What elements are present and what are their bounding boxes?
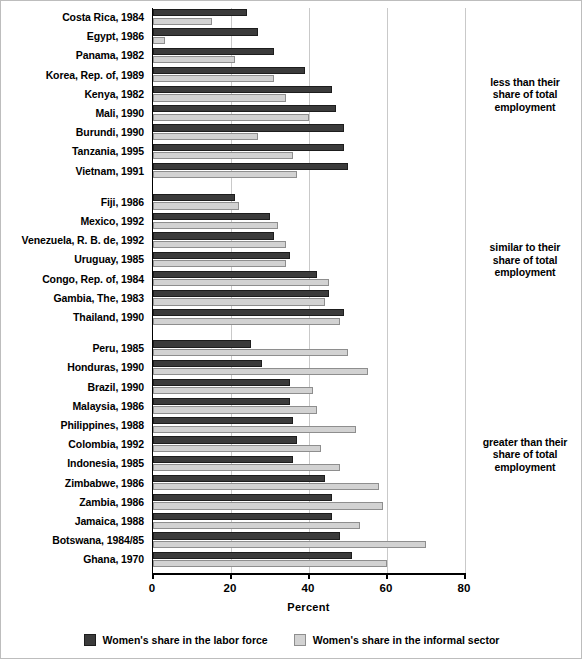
bar-labor-force: [153, 290, 329, 297]
row-label: Uruguay, 1985: [0, 251, 144, 268]
chart-row: Jamaica, 1988: [0, 512, 583, 531]
bar-labor-force: [153, 194, 235, 201]
row-bars: [153, 308, 573, 327]
row-bars: [153, 550, 573, 569]
row-bars: [153, 212, 573, 231]
row-label: Philippines, 1988: [0, 417, 144, 434]
row-bars: [153, 378, 573, 397]
bar-informal-sector: [153, 318, 340, 325]
chart-row: Peru, 1985: [0, 339, 583, 358]
x-tick-label-80: 80: [457, 582, 470, 594]
group-note-line: similar to their: [470, 241, 580, 254]
bar-informal-sector: [153, 222, 278, 229]
row-label: Burundi, 1990: [0, 124, 144, 141]
x-tick-label-0: 0: [149, 582, 156, 594]
row-label: Panama, 1982: [0, 47, 144, 64]
chart-row: Thailand, 1990: [0, 308, 583, 327]
x-tick-20: [230, 573, 232, 579]
row-bars: [153, 289, 573, 308]
bar-labor-force: [153, 494, 332, 501]
bar-informal-sector: [153, 202, 239, 209]
bar-informal-sector: [153, 171, 297, 178]
chart-row: Zimbabwe, 1986: [0, 474, 583, 493]
chart-row: Ghana, 1970: [0, 550, 583, 569]
row-bars: [153, 358, 573, 377]
chart-row: Tanzania, 1995: [0, 142, 583, 161]
chart-row: Malaysia, 1986: [0, 397, 583, 416]
chart-row: Mexico, 1992: [0, 212, 583, 231]
row-label: Kenya, 1982: [0, 86, 144, 103]
horizontal-bar-chart: Costa Rica, 1984Egypt, 1986Panama, 1982K…: [0, 0, 583, 660]
bar-labor-force: [153, 9, 247, 16]
bar-informal-sector: [153, 464, 340, 471]
row-label: Tanzania, 1995: [0, 143, 144, 160]
bar-informal-sector: [153, 368, 368, 375]
chart-row: Gambia, The, 1983: [0, 289, 583, 308]
bar-informal-sector: [153, 56, 235, 63]
group-note: less than theirshare of totalemployment: [470, 76, 580, 114]
bar-informal-sector: [153, 18, 212, 25]
bar-informal-sector: [153, 241, 286, 248]
row-label: Malaysia, 1986: [0, 398, 144, 415]
bar-informal-sector: [153, 387, 313, 394]
bar-labor-force: [153, 552, 352, 559]
row-bars: [153, 8, 573, 27]
row-label: Mali, 1990: [0, 105, 144, 122]
x-tick-40: [308, 573, 310, 579]
bar-labor-force: [153, 213, 270, 220]
bar-informal-sector: [153, 560, 387, 567]
bar-labor-force: [153, 340, 251, 347]
row-bars: [153, 474, 573, 493]
group-note: similar to theirshare of totalemployment: [470, 241, 580, 279]
row-label: Gambia, The, 1983: [0, 290, 144, 307]
bar-labor-force: [153, 124, 344, 131]
x-tick-60: [386, 573, 388, 579]
bar-informal-sector: [153, 37, 165, 44]
bar-labor-force: [153, 105, 336, 112]
chart-row: Burundi, 1990: [0, 123, 583, 142]
group-note-line: employment: [470, 101, 580, 114]
chart-legend: Women's share in the labor force Women's…: [0, 634, 583, 646]
chart-row: Panama, 1982: [0, 46, 583, 65]
legend-label-informal-sector: Women's share in the informal sector: [313, 634, 500, 646]
bar-labor-force: [153, 398, 290, 405]
bar-labor-force: [153, 309, 344, 316]
bar-informal-sector: [153, 426, 356, 433]
bar-labor-force: [153, 163, 348, 170]
bar-labor-force: [153, 271, 317, 278]
bar-informal-sector: [153, 94, 286, 101]
chart-row: Zambia, 1986: [0, 493, 583, 512]
row-bars: [153, 123, 573, 142]
group-note-line: employment: [470, 266, 580, 279]
legend-label-labor-force: Women's share in the labor force: [103, 634, 268, 646]
bar-labor-force: [153, 436, 297, 443]
x-tick-label-60: 60: [379, 582, 392, 594]
bar-labor-force: [153, 86, 332, 93]
legend-item-informal-sector: Women's share in the informal sector: [294, 634, 500, 646]
bar-informal-sector: [153, 445, 321, 452]
group-note-line: less than their: [470, 76, 580, 89]
x-axis-title: Percent: [152, 601, 465, 613]
row-bars: [153, 416, 573, 435]
chart-row: Vietnam, 1991: [0, 162, 583, 181]
row-bars: [153, 162, 573, 181]
bar-informal-sector: [153, 152, 293, 159]
x-tick-label-40: 40: [301, 582, 314, 594]
row-label: Congo, Rep. of, 1984: [0, 271, 144, 288]
legend-swatch-labor-force: [84, 634, 96, 646]
row-bars: [153, 339, 573, 358]
group-note-line: employment: [470, 461, 580, 474]
row-label: Zimbabwe, 1986: [0, 475, 144, 492]
bar-informal-sector: [153, 406, 317, 413]
group-note-line: share of total: [470, 254, 580, 267]
group-note: greater than theirshare of totalemployme…: [470, 436, 580, 474]
row-label: Zambia, 1986: [0, 494, 144, 511]
group-note-line: share of total: [470, 448, 580, 461]
bar-labor-force: [153, 456, 293, 463]
row-label: Vietnam, 1991: [0, 163, 144, 180]
bar-informal-sector: [153, 133, 258, 140]
row-bars: [153, 142, 573, 161]
bar-informal-sector: [153, 502, 383, 509]
row-bars: [153, 397, 573, 416]
bar-informal-sector: [153, 279, 329, 286]
